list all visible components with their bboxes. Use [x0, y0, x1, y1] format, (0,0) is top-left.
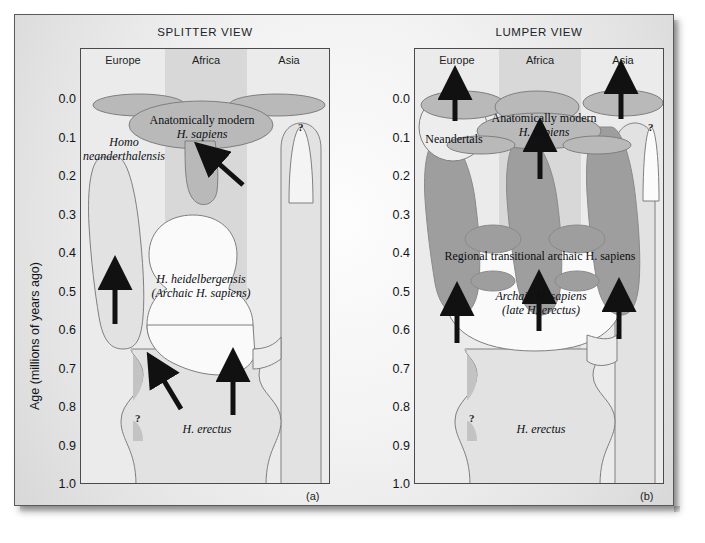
shape-heidelbergensis-asia-bridge	[253, 337, 281, 369]
y-tick-label-10: 1.0	[42, 477, 76, 491]
y-tick-label-5: 0.5	[42, 285, 76, 299]
panel-b-title: LUMPER VIEW	[414, 26, 664, 38]
y-axis-title: Age (millions of years ago)	[28, 262, 42, 410]
y-tick-label-b-5: 0.5	[376, 285, 410, 299]
shape-amhs-band-left-b	[447, 136, 515, 154]
panel-letter-b: (b)	[640, 490, 653, 502]
y-tick-label-1: 0.1	[42, 131, 76, 145]
y-tick-label-b-1: 0.1	[376, 131, 410, 145]
y-tick-label-b-8: 0.8	[376, 400, 410, 414]
y-tick-label-b-7: 0.7	[376, 362, 410, 376]
question-mark-asia-b: ?	[648, 121, 654, 133]
y-tick-label-9: 0.9	[42, 439, 76, 453]
question-mark-asia-a: ?	[298, 121, 304, 133]
shape-amhs-band-right-b	[563, 136, 631, 154]
shape-archaic-asia-bridge	[587, 335, 617, 366]
y-tick-label-b-3: 0.3	[376, 208, 410, 222]
y-tick-label-7: 0.7	[42, 362, 76, 376]
panel-a-title: SPLITTER VIEW	[80, 26, 330, 38]
shape-regional-bridge-af-as-lower	[555, 271, 599, 291]
figure-root: SPLITTER VIEW LUMPER VIEW Age (millions …	[0, 0, 705, 543]
y-tick-label-b-4: 0.4	[376, 246, 410, 260]
plot-area-splitter: Europe Africa Asia	[80, 48, 330, 484]
shape-h-erectus-base-b	[455, 349, 615, 484]
y-tick-label-b-2: 0.2	[376, 169, 410, 183]
y-tick-label-4: 0.4	[42, 246, 76, 260]
y-tick-label-b-10: 1.0	[376, 477, 410, 491]
y-tick-label-b-0: 0.0	[376, 92, 410, 106]
plate-drop-shadow-right	[674, 20, 680, 512]
shape-regional-bridge-af-as-upper	[549, 225, 605, 253]
shape-regional-europe	[425, 141, 480, 315]
y-tick-label-b-6: 0.6	[376, 323, 410, 337]
shape-amhs-europe-b	[421, 91, 505, 119]
shape-regional-bridge-eu-af-upper	[465, 225, 521, 253]
y-tick-label-2: 0.2	[42, 169, 76, 183]
plot-area-lumper: Europe Africa Asia	[414, 48, 664, 484]
y-tick-label-b-9: 0.9	[376, 439, 410, 453]
shape-amhs-stem	[185, 141, 218, 205]
y-tick-label-3: 0.3	[42, 208, 76, 222]
question-mark-bottom-a: ?	[135, 412, 141, 424]
panel-letter-a: (a)	[306, 490, 319, 502]
lumper-shapes-svg	[415, 49, 664, 484]
splitter-shapes-svg	[81, 49, 330, 484]
plate-drop-shadow-bottom	[20, 506, 680, 513]
y-tick-label-8: 0.8	[42, 400, 76, 414]
y-tick-label-6: 0.6	[42, 323, 76, 337]
y-tick-label-0: 0.0	[42, 92, 76, 106]
question-mark-bottom-b: ?	[469, 412, 475, 424]
shape-regional-bridge-eu-af-lower	[471, 271, 515, 291]
